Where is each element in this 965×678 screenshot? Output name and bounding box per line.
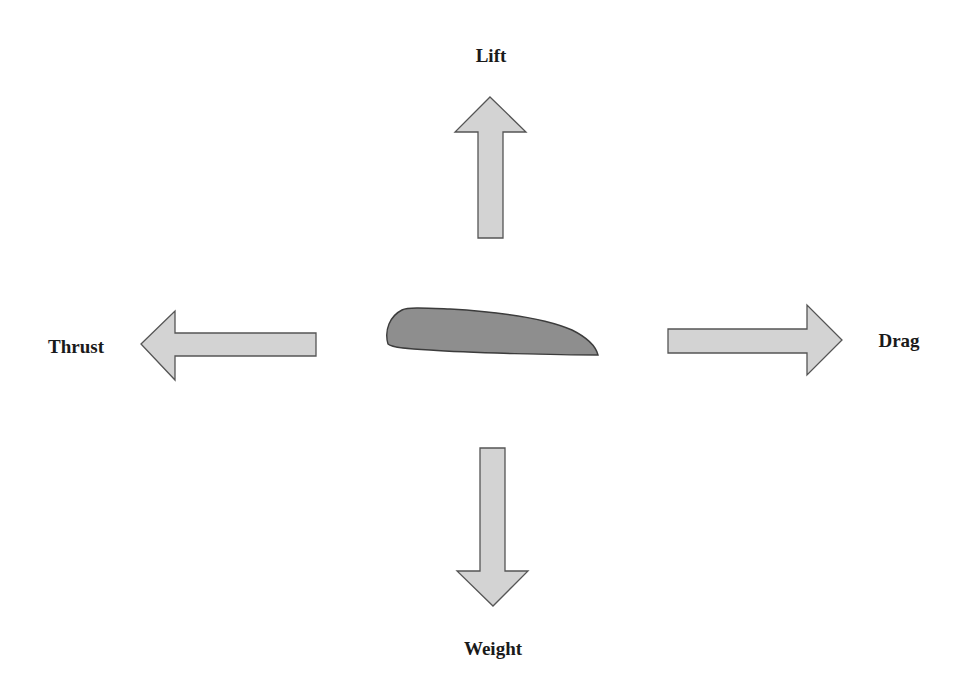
arrow-up-icon bbox=[455, 97, 526, 238]
lift-label: Lift bbox=[476, 45, 507, 66]
weight-label: Weight bbox=[464, 638, 523, 659]
forces-diagram: Lift Weight Thrust Drag bbox=[0, 0, 965, 678]
arrow-right-icon bbox=[668, 305, 842, 375]
arrow-down-icon bbox=[457, 448, 528, 606]
airfoil-shape bbox=[387, 308, 598, 355]
arrow-left-icon bbox=[141, 311, 316, 380]
weight-force: Weight bbox=[457, 448, 528, 659]
lift-force: Lift bbox=[455, 45, 526, 238]
thrust-force: Thrust bbox=[48, 311, 316, 380]
thrust-label: Thrust bbox=[48, 336, 105, 357]
drag-label: Drag bbox=[878, 330, 920, 351]
drag-force: Drag bbox=[668, 305, 920, 375]
